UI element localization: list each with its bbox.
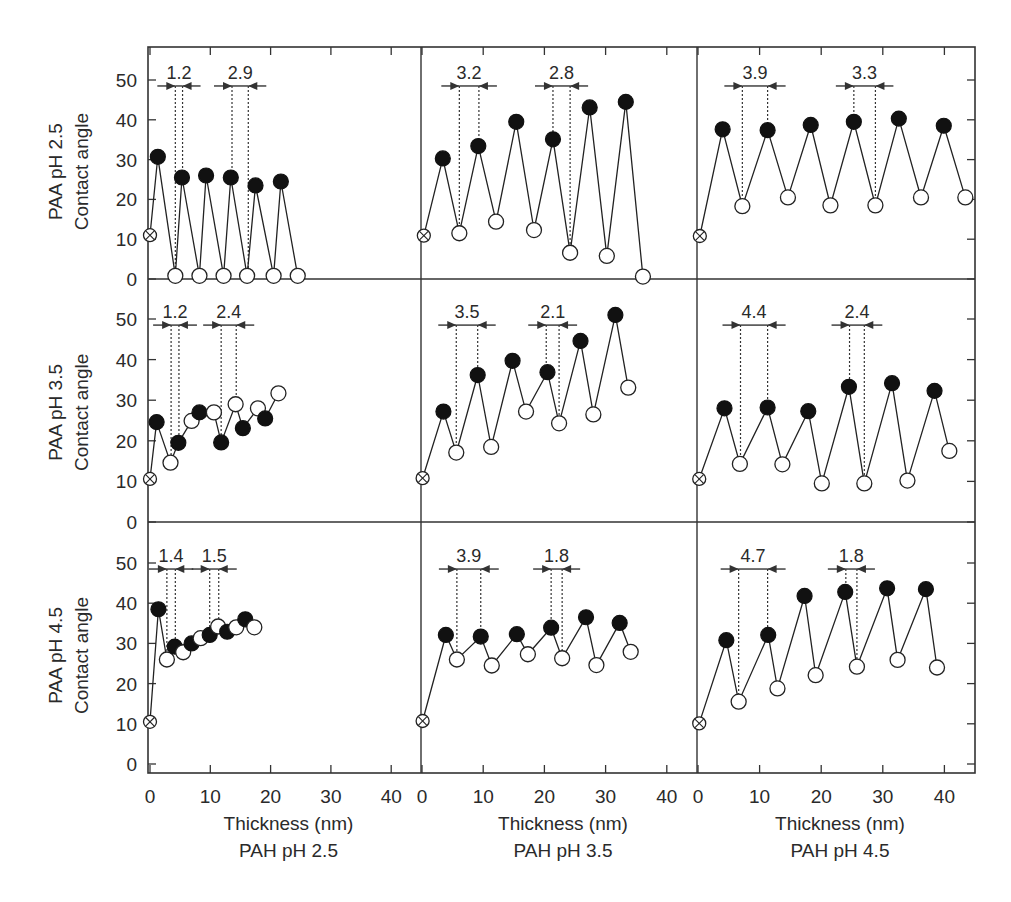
data-point-open — [857, 476, 872, 491]
data-point-filled — [715, 122, 730, 137]
data-point-filled — [618, 94, 633, 109]
panel-paa-2.5-pah-4.5: 3.93.3 — [693, 63, 972, 243]
data-point-crossed — [416, 714, 429, 727]
y-tick-label: 10 — [116, 471, 137, 492]
data-point-filled — [761, 627, 776, 642]
arrow-right-head — [447, 321, 456, 329]
y-axis-title: Contact angle — [71, 113, 92, 230]
data-point-crossed — [144, 715, 157, 728]
data-point-open — [735, 199, 750, 214]
arrow-right-head — [845, 82, 854, 90]
spacing-annotation: 3.9 — [724, 63, 785, 206]
data-point-filled — [509, 114, 524, 129]
data-point-crossed — [417, 229, 430, 242]
data-point-filled — [838, 584, 853, 599]
data-point-filled — [214, 435, 229, 450]
panel-paa-2.5-pah-2.5: 1.22.9 — [144, 63, 306, 283]
arrow-left-head — [179, 321, 188, 329]
y-tick-label: 20 — [116, 189, 137, 210]
data-point-open — [823, 198, 838, 213]
data-point-filled — [846, 114, 861, 129]
spacing-label: 1.5 — [202, 546, 227, 566]
data-point-open — [890, 652, 905, 667]
panels-layer: 1.22.93.22.83.93.31.22.43.52.14.42.41.41… — [144, 63, 973, 730]
arrow-left-head — [768, 82, 777, 90]
spacing-label: 2.8 — [549, 63, 574, 83]
arrow-left-head — [768, 321, 777, 329]
data-point-open — [621, 380, 636, 395]
data-point-filled — [192, 405, 207, 420]
spacing-annotation: 3.3 — [836, 63, 894, 205]
arrow-right-head — [212, 321, 221, 329]
arrow-right-head — [732, 321, 741, 329]
x-tick-label: 30 — [595, 786, 616, 807]
y-tick-label: 50 — [116, 70, 137, 91]
x-tick-label: 0 — [693, 786, 704, 807]
data-point-filled — [171, 435, 186, 450]
data-point-open — [555, 651, 570, 666]
x-tick-label: 0 — [145, 786, 156, 807]
y-tick-label: 30 — [116, 390, 137, 411]
data-point-filled — [223, 170, 238, 185]
data-point-filled — [235, 421, 250, 436]
panel-paa-2.5-pah-3.5: 3.22.8 — [417, 63, 650, 284]
x-tick-label: 20 — [811, 786, 832, 807]
arrow-right-head — [201, 565, 210, 573]
data-point-open — [586, 407, 601, 422]
row-title: PAA pH 3.5 — [45, 364, 66, 461]
arrow-left-head — [570, 82, 579, 90]
data-point-open — [163, 455, 178, 470]
x-axis-title: Thickness (nm) — [224, 813, 354, 834]
y-tick-label: 0 — [126, 269, 137, 290]
data-point-open — [240, 268, 255, 283]
data-point-open — [868, 198, 883, 213]
y-tick-label: 50 — [116, 553, 137, 574]
data-point-open — [489, 214, 504, 229]
y-tick-label: 50 — [116, 309, 137, 330]
data-point-filled — [509, 627, 524, 642]
arrow-left-head — [248, 82, 257, 90]
data-point-filled — [891, 111, 906, 126]
data-point-filled — [936, 118, 951, 133]
data-point-open — [731, 694, 746, 709]
row-title: PAA pH 2.5 — [45, 123, 66, 220]
arrow-right-head — [162, 321, 171, 329]
arrow-left-head — [175, 565, 184, 573]
column-title: PAH pH 4.5 — [791, 840, 890, 861]
panel-paa-3.5-pah-2.5: 1.22.4 — [144, 302, 286, 485]
y-tick-label: 30 — [116, 150, 137, 171]
y-tick-label: 20 — [116, 431, 137, 452]
x-tick-label: 10 — [749, 786, 770, 807]
data-point-crossed — [144, 229, 157, 242]
data-point-filled — [582, 100, 597, 115]
arrow-right-head — [166, 82, 175, 90]
data-point-filled — [545, 132, 560, 147]
data-point-open — [247, 620, 262, 635]
x-tick-label: 10 — [200, 786, 221, 807]
data-point-open — [563, 245, 578, 260]
data-point-open — [520, 647, 535, 662]
spacing-label: 1.8 — [544, 546, 569, 566]
spacing-label: 3.9 — [742, 63, 767, 83]
spacing-label: 2.1 — [540, 302, 565, 322]
data-point-open — [216, 268, 231, 283]
y-tick-label: 40 — [116, 350, 137, 371]
data-point-crossed — [144, 472, 157, 485]
data-point-open — [484, 439, 499, 454]
spacing-annotation: 2.1 — [528, 302, 577, 423]
spacing-annotation: 1.8 — [828, 546, 875, 667]
row-title: PAA pH 4.5 — [45, 607, 66, 704]
data-point-open — [589, 658, 604, 673]
arrow-left-head — [183, 82, 192, 90]
data-point-filled — [927, 383, 942, 398]
data-point-open — [900, 473, 915, 488]
arrow-left-head — [857, 565, 866, 573]
spacing-label: 3.9 — [456, 546, 481, 566]
data-point-filled — [435, 151, 450, 166]
arrow-right-head — [158, 565, 167, 573]
column-title: PAH pH 3.5 — [514, 840, 613, 861]
spacing-label: 2.4 — [844, 302, 869, 322]
data-point-filled — [505, 353, 520, 368]
data-point-filled — [573, 333, 588, 348]
spacing-label: 3.5 — [454, 302, 479, 322]
